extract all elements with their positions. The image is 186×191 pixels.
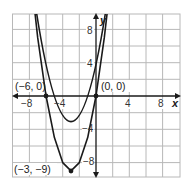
point-vertex xyxy=(69,169,74,174)
point-origin xyxy=(94,94,99,99)
x-tick-label: 4 xyxy=(125,98,131,109)
y-tick-label: 4 xyxy=(87,58,93,69)
x-tick-label: −8 xyxy=(21,98,33,109)
y-tick-label: −4 xyxy=(82,123,94,134)
x-tick-label: 8 xyxy=(158,98,164,109)
coordinate-plane: −8 −4 4 8 8 4 −4 −8 x y (−6, 0) (0, 0) (… xyxy=(0,0,186,191)
y-tick-label: −8 xyxy=(83,156,95,167)
x-tick-label: −4 xyxy=(54,98,66,109)
point-label-origin: (0, 0) xyxy=(101,80,126,92)
point-label-vertex: (−3, −9) xyxy=(14,163,51,175)
point-label-left-root: (−6, 0) xyxy=(15,80,46,92)
x-axis-label: x xyxy=(171,97,179,109)
point-left-root xyxy=(44,94,49,99)
y-axis-label: y xyxy=(99,14,107,26)
y-tick-label: 8 xyxy=(87,25,93,36)
